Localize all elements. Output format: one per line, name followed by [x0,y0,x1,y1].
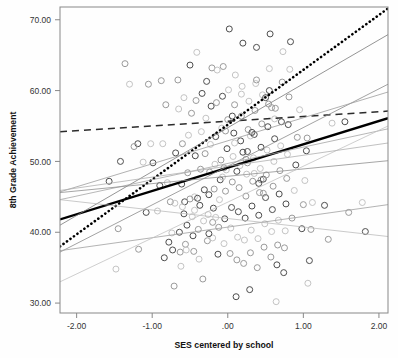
regression-line [60,84,388,252]
y-axis-title: 8th Grade Achievement [8,112,18,209]
data-point [145,81,151,87]
data-point [213,100,219,106]
data-point [211,186,217,192]
data-point [291,187,297,193]
data-point [304,135,310,141]
data-point [276,191,282,197]
data-point [113,266,119,272]
data-point [254,265,260,271]
data-point [214,67,220,73]
data-point [241,260,247,266]
data-point [322,202,328,208]
data-point [235,234,241,240]
data-point [206,231,212,237]
data-point [179,204,185,210]
data-point [297,107,303,113]
y-tick-label: 60.00 [30,86,52,96]
x-tick-label: -1.00 [143,321,163,331]
data-point [228,225,234,231]
regression-line [60,200,388,237]
data-point [171,283,177,289]
data-point [226,87,232,93]
data-point [216,224,222,230]
data-point [226,26,232,32]
data-point [179,141,185,147]
data-point [192,153,198,159]
data-point [294,134,300,140]
data-point [303,148,309,154]
data-point [192,207,198,213]
data-point [246,98,252,104]
data-point [232,140,238,146]
data-point [219,93,225,99]
data-point [122,61,128,67]
data-point [270,183,276,189]
data-point [223,188,229,194]
data-point [166,239,172,245]
data-point [359,200,365,206]
data-point [274,262,280,268]
data-point [140,159,146,165]
data-point [189,110,195,116]
data-point [306,258,312,264]
data-point [215,251,221,257]
data-point [281,245,287,251]
data-point [148,141,154,147]
data-point [115,226,121,232]
data-point [127,81,133,87]
data-point [257,166,263,172]
data-point [268,254,274,260]
data-point [288,39,294,45]
data-point [293,162,299,168]
data-point [176,106,182,112]
data-point [198,129,204,135]
data-point [286,94,292,100]
data-point [273,299,279,305]
x-tick-label: 1.00 [295,321,312,331]
data-point [234,168,240,174]
data-point [229,204,235,210]
data-point [250,178,256,184]
x-axis-title: SES centered by school [175,340,274,350]
data-point [300,202,306,208]
data-point [305,280,311,286]
data-point [177,249,183,255]
data-point [184,222,190,228]
data-point [342,119,348,125]
data-point [309,200,315,206]
data-point [261,244,267,250]
data-point [232,102,238,108]
data-point [199,90,205,96]
data-point [194,49,200,55]
data-point [224,146,230,152]
data-point [256,212,262,218]
data-point [267,31,273,37]
data-point [248,227,254,233]
data-point [117,158,123,164]
data-point [241,237,247,243]
data-point [181,95,187,101]
data-point [269,229,275,235]
regression-line [60,8,388,246]
data-point [239,83,245,89]
data-point [190,233,196,239]
plot-area: -2.00-1.00.001.002.00 30.0040.0050.0060.… [0,0,398,358]
data-point [221,241,227,247]
data-point [230,153,236,159]
data-point [280,49,286,55]
y-tick-label: 30.00 [30,298,52,308]
data-point [249,203,255,209]
data-point [238,138,244,144]
y-axis-ticks: 30.0040.0050.0060.0070.00 [30,15,60,308]
data-point [264,147,270,153]
data-point [235,209,241,215]
data-point [201,218,207,224]
y-tick-label: 50.00 [30,157,52,167]
scatter-chart: -2.00-1.00.001.002.00 30.0040.0050.0060.… [0,0,398,358]
data-point [283,201,289,207]
data-point [191,248,197,254]
data-point [143,209,149,215]
data-point [216,197,222,203]
data-point [240,40,246,46]
x-axis-ticks: -2.00-1.00.001.002.00 [67,313,388,331]
